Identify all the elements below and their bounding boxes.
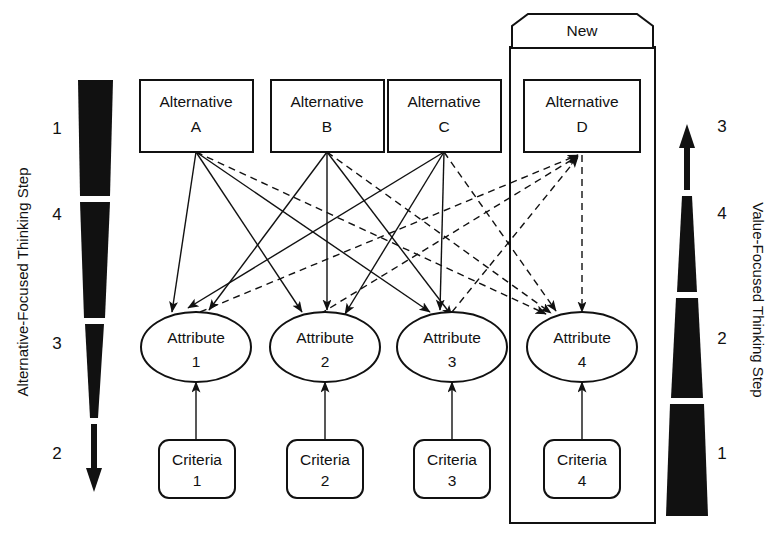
- attribute-4-label-line2: 4: [578, 353, 587, 370]
- attribute-3-label-line1: Attribute: [423, 329, 481, 346]
- criteria-4-label-line1: Criteria: [557, 451, 607, 468]
- attribute-4-label-line1: Attribute: [553, 329, 611, 346]
- attribute-1-label-line2: 1: [192, 353, 201, 370]
- criteria-2-node[interactable]: Criteria 2: [287, 440, 363, 498]
- criteria-4-box[interactable]: [544, 440, 620, 498]
- left-axis-step-2: 4: [52, 205, 61, 224]
- criteria-1-label-line2: 1: [193, 472, 202, 489]
- alternative-a-label-line1: Alternative: [159, 93, 232, 110]
- alternative-b-label-line1: Alternative: [290, 93, 363, 110]
- left-axis-step-4: 2: [52, 444, 61, 463]
- attribute-4-ellipse[interactable]: [527, 312, 637, 382]
- left-axis: 1 4 3 2 Alternative-Focused Thinking Ste…: [14, 80, 113, 492]
- criteria-3-node[interactable]: Criteria 3: [414, 440, 490, 498]
- left-axis-arrowhead-icon: [86, 468, 102, 492]
- right-axis-wedge-segment-2: [677, 196, 697, 292]
- criteria-4-label-line2: 4: [578, 472, 587, 489]
- right-axis-step-4: 1: [717, 444, 726, 463]
- criteria-row: Criteria 1 Criteria 2 Criteria 3 Criteri…: [159, 440, 620, 498]
- criteria-1-box[interactable]: [159, 440, 235, 498]
- left-axis-wedge-segment-1: [78, 80, 113, 196]
- alternative-c-node[interactable]: Alternative C: [388, 80, 501, 152]
- link-attr-1-alt-d: [200, 155, 578, 312]
- link-alt-c-attr-1: [188, 152, 444, 308]
- link-alt-b-attr-1: [209, 152, 327, 310]
- alternative-d-node[interactable]: Alternative D: [524, 80, 640, 152]
- alternative-b-box[interactable]: [271, 80, 384, 152]
- criteria-3-box[interactable]: [414, 440, 490, 498]
- criteria-3-label-line2: 3: [448, 472, 457, 489]
- attributes-row: Attribute 1 Attribute 2 Attribute 3 Attr…: [141, 312, 637, 382]
- attribute-2-node[interactable]: Attribute 2: [270, 312, 380, 382]
- attribute-3-node[interactable]: Attribute 3: [397, 312, 507, 382]
- right-axis-step-1: 3: [717, 117, 726, 136]
- existing-links-group: [172, 152, 452, 316]
- alternative-c-box[interactable]: [388, 80, 501, 152]
- left-axis-step-3: 3: [52, 334, 61, 353]
- alternative-b-node[interactable]: Alternative B: [271, 80, 384, 152]
- link-alt-c-attr-4: [444, 152, 556, 311]
- right-axis: 3 4 2 1 Value-Focused Thinking Step: [666, 117, 767, 516]
- attribute-3-ellipse[interactable]: [397, 312, 507, 382]
- left-axis-title: Alternative-Focused Thinking Step: [14, 167, 31, 396]
- link-alt-a-attr-2: [196, 152, 302, 312]
- criteria-links-group: [196, 382, 582, 440]
- right-axis-title: Value-Focused Thinking Step: [750, 202, 767, 397]
- right-axis-step-3: 2: [717, 329, 726, 348]
- left-axis-wedge-segment-4: [91, 424, 97, 470]
- attribute-2-ellipse[interactable]: [270, 312, 380, 382]
- left-axis-wedge-segment-3: [85, 324, 104, 418]
- criteria-1-node[interactable]: Criteria 1: [159, 440, 235, 498]
- criteria-1-label-line1: Criteria: [172, 451, 222, 468]
- attribute-1-label-line1: Attribute: [167, 329, 225, 346]
- alternative-d-label-line1: Alternative: [545, 93, 618, 110]
- attribute-3-label-line2: 3: [448, 353, 457, 370]
- criteria-3-label-line1: Criteria: [427, 451, 477, 468]
- new-badge-label: New: [566, 22, 598, 39]
- link-attr-3-alt-d: [452, 157, 578, 312]
- alternative-a-label-line2: A: [191, 118, 202, 135]
- alternative-d-box[interactable]: [524, 80, 640, 152]
- link-alt-a-attr-4: [196, 152, 546, 314]
- alternative-c-label-line1: Alternative: [407, 93, 480, 110]
- right-axis-arrowhead-icon: [679, 124, 695, 148]
- attribute-2-label-line1: Attribute: [296, 329, 354, 346]
- attribute-4-node[interactable]: Attribute 4: [527, 312, 637, 382]
- criteria-2-box[interactable]: [287, 440, 363, 498]
- right-axis-wedge-segment-4: [666, 404, 708, 516]
- new-links-group: [196, 152, 582, 314]
- diagram-canvas: 1 4 3 2 Alternative-Focused Thinking Ste…: [0, 0, 781, 545]
- alternative-b-label-line2: B: [322, 118, 332, 135]
- criteria-2-label-line1: Criteria: [300, 451, 350, 468]
- criteria-2-label-line2: 2: [321, 472, 330, 489]
- attribute-2-label-line2: 2: [321, 353, 330, 370]
- alternative-a-node[interactable]: Alternative A: [140, 80, 253, 152]
- left-axis-step-1: 1: [52, 119, 61, 138]
- thinking-steps-diagram: 1 4 3 2 Alternative-Focused Thinking Ste…: [0, 0, 781, 545]
- alternative-a-box[interactable]: [140, 80, 253, 152]
- attribute-1-node[interactable]: Attribute 1: [141, 312, 251, 382]
- left-axis-wedge-segment-2: [80, 202, 110, 318]
- alternatives-row: Alternative A Alternative B Alternative …: [140, 80, 640, 152]
- criteria-4-node[interactable]: Criteria 4: [544, 440, 620, 498]
- alternative-c-label-line2: C: [438, 118, 449, 135]
- attribute-1-ellipse[interactable]: [141, 312, 251, 382]
- right-axis-wedge-segment-1: [684, 148, 690, 190]
- right-axis-wedge-segment-3: [671, 298, 703, 398]
- link-alt-a-attr-1: [172, 152, 196, 312]
- right-axis-step-2: 4: [717, 204, 726, 223]
- alternative-d-label-line2: D: [576, 118, 587, 135]
- link-alt-c-attr-3: [440, 152, 444, 310]
